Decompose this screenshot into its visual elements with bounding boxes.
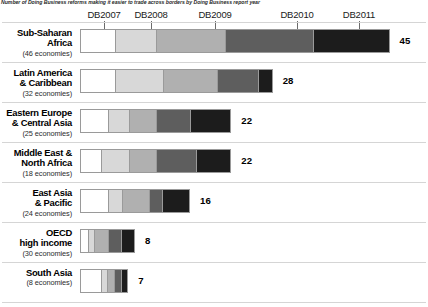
bar-segment-db2008 bbox=[108, 110, 128, 132]
chart-row: Latin America& Caribbean(32 economies)28 bbox=[0, 68, 428, 100]
bar-segment-db2009 bbox=[156, 30, 224, 52]
bar-total-value: 8 bbox=[145, 229, 150, 253]
bar-total-value: 16 bbox=[200, 189, 211, 213]
stacked-bar bbox=[80, 269, 128, 293]
region-name-line1: South Asia bbox=[0, 268, 72, 278]
region-label-group: South Asia(8 economies) bbox=[0, 268, 75, 287]
stacked-bar bbox=[80, 149, 231, 173]
row-divider bbox=[2, 62, 426, 63]
stacked-bar bbox=[80, 229, 135, 253]
chart-row: South Asia(8 economies)7 bbox=[0, 268, 428, 300]
bar-segment-db2008 bbox=[101, 270, 108, 292]
bar-segment-db2007 bbox=[81, 110, 108, 132]
bar-segment-db2007 bbox=[81, 230, 88, 252]
row-divider bbox=[2, 182, 426, 183]
bar-segment-db2010 bbox=[108, 230, 121, 252]
region-economies-count: (32 economies) bbox=[0, 89, 72, 98]
bar-segment-db2008 bbox=[101, 150, 128, 172]
bar-total-value: 28 bbox=[283, 69, 294, 93]
year-label-db2007: DB2007 bbox=[87, 9, 120, 20]
year-label-db2011: DB2011 bbox=[343, 9, 375, 20]
bar-segment-db2009 bbox=[94, 230, 107, 252]
row-divider bbox=[2, 142, 426, 143]
region-economies-count: (18 economies) bbox=[0, 169, 72, 178]
year-label-db2009: DB2009 bbox=[198, 9, 231, 20]
region-label-group: East Asia& Pacific(24 economies) bbox=[0, 188, 75, 218]
bar-segment-db2008 bbox=[115, 30, 156, 52]
bar-segment-db2008 bbox=[88, 230, 95, 252]
bar-segment-db2011 bbox=[121, 270, 128, 292]
stacked-bar bbox=[80, 29, 390, 53]
region-label-group: Middle East &North Africa(18 economies) bbox=[0, 148, 75, 178]
region-label-group: Sub-SaharanAfrica(46 economies) bbox=[0, 28, 75, 58]
bar-segment-db2009 bbox=[163, 70, 217, 92]
region-name-line2: Africa bbox=[0, 38, 72, 48]
bar-segment-db2010 bbox=[156, 150, 197, 172]
bar-segment-db2010 bbox=[225, 30, 314, 52]
row-divider bbox=[2, 102, 426, 103]
region-name-line2: & Caribbean bbox=[0, 78, 72, 88]
bar-total-value: 22 bbox=[241, 149, 252, 173]
bar-segment-db2011 bbox=[313, 30, 388, 52]
region-label-group: Latin America& Caribbean(32 economies) bbox=[0, 68, 75, 98]
chart-row: Middle East &North Africa(18 economies)2… bbox=[0, 148, 428, 180]
bar-segment-db2007 bbox=[81, 190, 108, 212]
bar-segment-db2011 bbox=[258, 70, 272, 92]
stacked-bar bbox=[80, 109, 231, 133]
bar-segment-db2011 bbox=[121, 230, 134, 252]
bar-segment-db2007 bbox=[81, 30, 115, 52]
bar-segment-db2010 bbox=[156, 110, 190, 132]
region-economies-count: (30 economies) bbox=[0, 249, 72, 258]
bar-segment-db2011 bbox=[162, 190, 189, 212]
bar-segment-db2009 bbox=[129, 150, 156, 172]
stacked-bar bbox=[80, 189, 190, 213]
bar-segment-db2008 bbox=[115, 70, 163, 92]
row-divider bbox=[2, 222, 426, 223]
bar-segment-db2010 bbox=[217, 70, 258, 92]
year-label-db2008: DB2008 bbox=[134, 9, 167, 20]
region-name-line2: & Central Asia bbox=[0, 118, 72, 128]
chart-caption: Number of Doing Business reforms making … bbox=[0, 0, 428, 6]
stacked-bar bbox=[80, 69, 273, 93]
region-economies-count: (8 economies) bbox=[0, 278, 72, 287]
bar-total-value: 7 bbox=[138, 269, 143, 293]
region-economies-count: (24 economies) bbox=[0, 209, 72, 218]
bar-segment-db2010 bbox=[149, 190, 163, 212]
region-economies-count: (46 economies) bbox=[0, 49, 72, 58]
bar-segment-db2007 bbox=[81, 70, 115, 92]
row-divider bbox=[2, 22, 426, 23]
chart-row: Eastern Europe& Central Asia(25 economie… bbox=[0, 108, 428, 140]
bar-segment-db2009 bbox=[129, 110, 156, 132]
bar-segment-db2009 bbox=[122, 190, 149, 212]
year-axis-header: DB2007DB2008DB2009DB2010DB2011 bbox=[0, 9, 428, 29]
bar-segment-db2011 bbox=[190, 110, 231, 132]
year-label-db2010: DB2010 bbox=[280, 9, 313, 20]
region-economies-count: (25 economies) bbox=[0, 129, 72, 138]
chart-row: Sub-SaharanAfrica(46 economies)45 bbox=[0, 28, 428, 60]
region-label-group: OECDhigh income(30 economies) bbox=[0, 228, 75, 258]
bar-total-value: 22 bbox=[241, 109, 252, 133]
bar-segment-db2007 bbox=[81, 150, 101, 172]
region-label-group: Eastern Europe& Central Asia(25 economie… bbox=[0, 108, 75, 138]
bar-segment-db2009 bbox=[107, 270, 114, 292]
region-name-line2: North Africa bbox=[0, 158, 72, 168]
bar-segment-db2007 bbox=[81, 270, 101, 292]
bar-total-value: 45 bbox=[400, 29, 411, 53]
bar-segment-db2011 bbox=[196, 150, 230, 172]
bar-segment-db2010 bbox=[114, 270, 121, 292]
chart-row: OECDhigh income(30 economies)8 bbox=[0, 228, 428, 260]
chart-root: Number of Doing Business reforms making … bbox=[0, 0, 428, 307]
region-name-line2: high income bbox=[0, 238, 72, 248]
row-divider bbox=[2, 262, 426, 263]
row-divider bbox=[2, 302, 426, 303]
bar-segment-db2008 bbox=[108, 190, 122, 212]
region-name-line2: & Pacific bbox=[0, 198, 72, 208]
chart-row: East Asia& Pacific(24 economies)16 bbox=[0, 188, 428, 220]
